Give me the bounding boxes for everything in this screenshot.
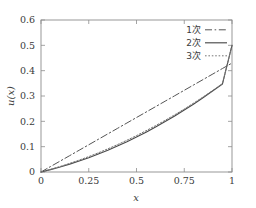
x-tick-label: 0 — [38, 175, 44, 186]
series-line-1 — [41, 63, 232, 172]
y-tick-label: 0.5 — [20, 40, 35, 51]
x-tick-label: 1 — [229, 175, 235, 186]
y-tick-label: 0 — [29, 166, 35, 177]
series-line-2 — [41, 45, 232, 172]
legend-label-2: 2次 — [186, 37, 201, 48]
x-tick-label: 0.5 — [129, 175, 144, 186]
chart-legend: 1次2次3次 — [186, 24, 227, 61]
figure-container: 00.250.50.751 00.10.20.30.40.50.6 x u(x)… — [0, 0, 256, 208]
y-axis-ticks — [41, 20, 232, 172]
line-chart: 00.250.50.751 00.10.20.30.40.50.6 x u(x)… — [0, 0, 256, 208]
legend-label-1: 1次 — [186, 24, 201, 35]
series-group — [41, 45, 232, 172]
plot-frame — [41, 20, 232, 172]
y-tick-label: 0.2 — [20, 116, 35, 127]
x-tick-label: 0.25 — [78, 175, 99, 186]
series-line-3 — [41, 45, 232, 172]
legend-label-3: 3次 — [186, 50, 201, 61]
y-axis-title: u(x) — [5, 86, 16, 106]
x-axis-title: x — [133, 192, 139, 203]
y-tick-label: 0.6 — [20, 14, 35, 25]
y-tick-label: 0.4 — [20, 65, 35, 76]
x-axis-ticks — [41, 20, 232, 172]
y-axis-tick-labels: 00.10.20.30.40.50.6 — [20, 14, 35, 177]
y-tick-label: 0.3 — [20, 90, 35, 101]
x-tick-label: 0.75 — [174, 175, 195, 186]
x-axis-tick-labels: 00.250.50.751 — [38, 175, 235, 186]
y-tick-label: 0.1 — [20, 141, 35, 152]
